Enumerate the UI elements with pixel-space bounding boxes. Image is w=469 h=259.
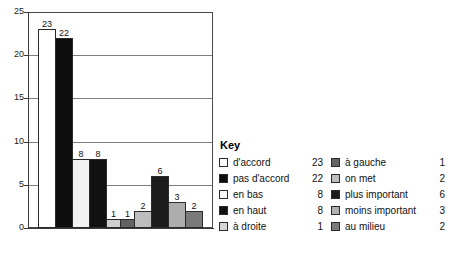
bar-9: 3: [168, 202, 186, 228]
bar-5: 1: [106, 219, 121, 228]
bar-1: 23: [38, 29, 56, 228]
legend-count: 2: [431, 173, 445, 184]
bar-value-label-2: 22: [59, 28, 69, 38]
legend-item-a-5: à droite1: [219, 218, 323, 234]
legend-count: 6: [431, 189, 445, 200]
legend-label: à gauche: [345, 157, 431, 168]
bar-value-label-4: 8: [95, 149, 100, 159]
y-tick-label-5: 5: [2, 180, 24, 189]
legend-swatch-icon: [219, 158, 228, 167]
legend-label: d'accord: [233, 157, 303, 168]
legend-item-b-3: plus important6: [331, 186, 445, 202]
bar-chart: 2520151050 232288112632: [0, 0, 220, 259]
bar-10: 2: [185, 211, 203, 228]
legend-item-b-5: au milieu2: [331, 218, 445, 234]
bar-value-label-5: 1: [111, 209, 116, 219]
legend-label: pas d'accord: [233, 173, 303, 184]
y-tick-mark-0: [24, 228, 29, 229]
bar-4: 8: [89, 159, 107, 228]
legend-swatch-icon: [219, 206, 228, 215]
legend-count: 2: [431, 221, 445, 232]
bar-series: 232288112632: [28, 12, 213, 228]
legend-count: 1: [431, 157, 445, 168]
bar-value-label-7: 2: [140, 201, 145, 211]
y-tick-label-0: 0: [2, 223, 24, 232]
legend-item-b-2: on met2: [331, 170, 445, 186]
legend-swatch-icon: [331, 206, 340, 215]
legend-column-left: d'accord23pas d'accord22en bas8en haut8à…: [219, 154, 323, 234]
legend-label: on met: [345, 173, 431, 184]
legend-label: à droite: [233, 221, 303, 232]
legend-item-b-1: à gauche1: [331, 154, 445, 170]
legend-swatch-icon: [331, 222, 340, 231]
legend-title: Key: [220, 139, 469, 151]
legend-count: 8: [303, 189, 323, 200]
y-tick-label-25: 25: [2, 7, 24, 16]
bar-value-label-1: 23: [42, 19, 52, 29]
legend-swatch-icon: [219, 174, 228, 183]
legend-swatch-icon: [219, 190, 228, 199]
legend-item-a-1: d'accord23: [219, 154, 323, 170]
legend-swatch-icon: [331, 190, 340, 199]
chart-screenshot: 2520151050 232288112632 Key d'accord23pa…: [0, 0, 469, 259]
legend-count: 22: [303, 173, 323, 184]
legend-swatch-icon: [331, 158, 340, 167]
legend-label: plus important: [345, 189, 431, 200]
bar-value-label-8: 6: [157, 166, 162, 176]
x-axis-line: [28, 228, 214, 229]
legend-count: 23: [303, 157, 323, 168]
y-tick-label-15: 15: [2, 93, 24, 102]
legend-item-a-3: en bas8: [219, 186, 323, 202]
bar-value-label-10: 2: [191, 201, 196, 211]
y-axis-labels: 2520151050: [0, 0, 24, 259]
bar-value-label-6: 1: [125, 209, 130, 219]
legend-swatch-icon: [219, 222, 228, 231]
bar-2: 22: [55, 38, 73, 228]
bar-7: 2: [134, 211, 152, 228]
legend-count: 8: [303, 205, 323, 216]
legend-item-b-4: moins important3: [331, 202, 445, 218]
legend-label: moins important: [345, 205, 431, 216]
bar-3: 8: [72, 159, 90, 228]
legend: Key d'accord23pas d'accord22en bas8en ha…: [219, 139, 469, 234]
bar-8: 6: [151, 176, 169, 228]
legend-item-a-4: en haut8: [219, 202, 323, 218]
legend-label: en bas: [233, 189, 303, 200]
legend-label: au milieu: [345, 221, 431, 232]
legend-count: 3: [431, 205, 445, 216]
y-tick-label-10: 10: [2, 137, 24, 146]
bar-value-label-9: 3: [174, 192, 179, 202]
bar-6: 1: [120, 219, 135, 228]
y-tick-label-20: 20: [2, 50, 24, 59]
legend-column-right: à gauche1on met2plus important6moins imp…: [331, 154, 445, 234]
legend-swatch-icon: [331, 174, 340, 183]
legend-count: 1: [303, 221, 323, 232]
legend-label: en haut: [233, 205, 303, 216]
legend-item-a-2: pas d'accord22: [219, 170, 323, 186]
bar-value-label-3: 8: [78, 149, 83, 159]
